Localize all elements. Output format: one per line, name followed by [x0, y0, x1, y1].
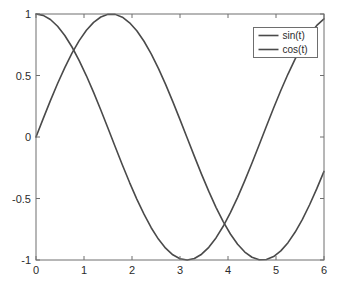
- legend[interactable]: sin(t)cos(t): [254, 28, 318, 58]
- y-tick-label: -1: [21, 254, 31, 266]
- y-tick-label: 0.5: [16, 70, 31, 82]
- y-axis-tick-labels: -1-0.500.51: [12, 8, 31, 266]
- figure-canvas: 0123456 -1-0.500.51 sin(t)cos(t): [0, 0, 338, 287]
- x-tick-label: 1: [81, 264, 87, 276]
- x-axis-tick-labels: 0123456: [33, 264, 327, 276]
- y-tick-label: 1: [25, 8, 31, 20]
- x-tick-label: 5: [273, 264, 279, 276]
- y-tick-label: -0.5: [12, 193, 31, 205]
- legend-label-0: sin(t): [283, 30, 305, 41]
- x-tick-label: 6: [321, 264, 327, 276]
- chart-plot[interactable]: 0123456 -1-0.500.51 sin(t)cos(t): [0, 0, 338, 287]
- legend-label-1: cos(t): [283, 44, 308, 55]
- x-tick-label: 4: [225, 264, 231, 276]
- y-tick-label: 0: [25, 131, 31, 143]
- x-tick-label: 0: [33, 264, 39, 276]
- x-tick-label: 3: [177, 264, 183, 276]
- x-tick-label: 2: [129, 264, 135, 276]
